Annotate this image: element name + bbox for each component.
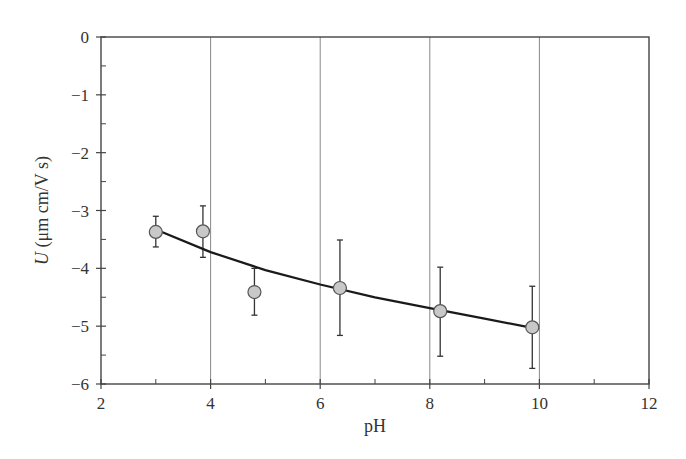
- x-tick-label: 12: [641, 394, 658, 413]
- y-axis-title: U (μm cm/V s): [32, 156, 53, 265]
- y-tick-label: −3: [71, 202, 89, 221]
- x-tick-label: 6: [316, 394, 325, 413]
- data-point-marker: [196, 225, 209, 238]
- chart: 24681012 0−1−2−3−4−5−6 pH U (μm cm/V s): [0, 0, 686, 459]
- y-axis-title-symbol: U: [32, 251, 52, 265]
- y-tick-label: 0: [81, 28, 90, 47]
- data-point-marker: [333, 281, 346, 294]
- x-tick-labels: 24681012: [97, 394, 658, 413]
- x-tick-label: 8: [426, 394, 435, 413]
- x-tick-label: 10: [531, 394, 548, 413]
- x-axis-title: pH: [364, 416, 386, 436]
- y-tick-label: −6: [71, 375, 89, 394]
- y-tick-labels: 0−1−2−3−4−5−6: [71, 28, 90, 394]
- data-point-marker: [149, 225, 162, 238]
- y-tick-label: −4: [71, 259, 90, 278]
- data-point-marker: [248, 286, 261, 299]
- x-tick-label: 2: [97, 394, 106, 413]
- data-point-marker: [434, 305, 447, 318]
- data-point-marker: [526, 321, 539, 334]
- y-tick-label: −1: [71, 86, 89, 105]
- fit-curve: [156, 230, 533, 328]
- y-tick-label: −5: [71, 317, 89, 336]
- x-tick-label: 4: [206, 394, 215, 413]
- vertical-gridlines: [211, 37, 540, 384]
- y-axis-title-units: (μm cm/V s): [32, 156, 53, 252]
- axis-ticks: [96, 37, 649, 389]
- plot-frame: [101, 37, 649, 384]
- y-tick-label: −2: [71, 144, 89, 163]
